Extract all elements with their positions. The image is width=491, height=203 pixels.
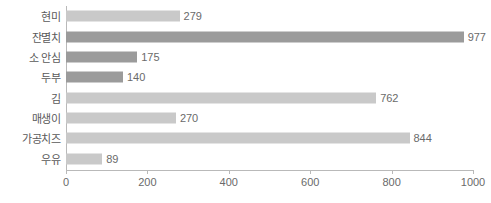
plot-area: 현미279잔멸치977소 안심175두부140김762매생이270가공치즈844… [66, 6, 473, 169]
x-axis-tick-label: 200 [138, 176, 156, 188]
bar-value-label: 977 [464, 31, 486, 43]
bar-row: 현미279 [66, 6, 473, 26]
x-axis-tick-label: 1000 [461, 176, 485, 188]
bar-chart: 현미279잔멸치977소 안심175두부140김762매생이270가공치즈844… [0, 0, 491, 203]
bar-value-label: 140 [123, 71, 145, 83]
x-axis-tick-list: 02004006008001000 [66, 170, 473, 203]
bar [66, 133, 410, 144]
bar [66, 92, 376, 103]
bar-row: 가공치즈844 [66, 128, 473, 148]
bar-row: 두부140 [66, 67, 473, 87]
tick-mark [310, 170, 311, 174]
bar-row: 매생이270 [66, 108, 473, 128]
bar-row: 우유89 [66, 149, 473, 169]
bar [66, 113, 176, 124]
bar-row: 김762 [66, 88, 473, 108]
category-label: 소 안심 [29, 49, 61, 65]
tick-mark [66, 170, 67, 174]
bar-value-label: 270 [176, 112, 198, 124]
bar-row: 소 안심175 [66, 47, 473, 67]
x-axis-tick-label: 800 [382, 176, 400, 188]
x-axis-tick-label: 400 [220, 176, 238, 188]
bar [66, 72, 123, 83]
bar-row: 잔멸치977 [66, 26, 473, 46]
tick-mark [473, 170, 474, 174]
category-label: 우유 [41, 151, 61, 167]
tick-mark [229, 170, 230, 174]
bar-value-label: 762 [376, 92, 398, 104]
bar-value-label: 844 [410, 132, 432, 144]
tick-mark [392, 170, 393, 174]
bar-value-label: 89 [102, 153, 118, 165]
bar [66, 11, 180, 22]
category-label: 가공치즈 [22, 130, 61, 146]
category-label: 잔멸치 [32, 29, 61, 45]
category-label: 김 [51, 90, 61, 106]
x-axis-tick-label: 0 [63, 176, 69, 188]
bar [66, 153, 102, 164]
category-label: 두부 [41, 69, 61, 85]
bar [66, 31, 464, 42]
bar-value-label: 279 [180, 10, 202, 22]
bar-row-list: 현미279잔멸치977소 안심175두부140김762매생이270가공치즈844… [66, 6, 473, 169]
x-axis-tick-label: 600 [301, 176, 319, 188]
bar [66, 51, 137, 62]
bar-value-label: 175 [137, 51, 159, 63]
category-label: 현미 [41, 8, 61, 24]
tick-mark [147, 170, 148, 174]
category-label: 매생이 [32, 110, 61, 126]
